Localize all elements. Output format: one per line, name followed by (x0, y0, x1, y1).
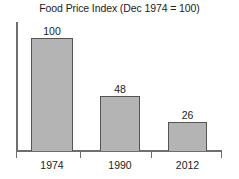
x-axis-tick (80, 152, 81, 158)
x-axis-label-2012: 2012 (168, 159, 207, 171)
bar-2012 (168, 122, 207, 151)
y-axis-line (16, 22, 18, 152)
bar-1990 (100, 96, 140, 151)
x-axis-label-1974: 1974 (31, 159, 73, 171)
x-axis-label-1990: 1990 (100, 159, 140, 171)
bar-value-label-1990: 48 (100, 83, 140, 95)
plot-area: 100 48 26 1974 1990 2012 (0, 0, 239, 179)
food-price-index-bar-chart: Food Price Index (Dec 1974 = 100) 100 48… (0, 0, 239, 179)
x-axis-tick (16, 152, 17, 158)
x-axis-tick (221, 152, 222, 158)
bar-value-label-2012: 26 (168, 109, 207, 121)
x-axis-tick (151, 152, 152, 158)
bar-value-label-1974: 100 (31, 25, 73, 37)
bar-1974 (31, 38, 73, 151)
